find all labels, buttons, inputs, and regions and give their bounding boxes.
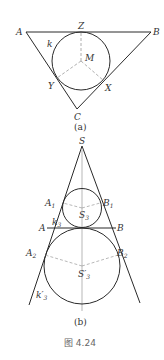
label-s3-prime: S′3 [78,269,90,280]
label-a: A [15,27,23,37]
label-s3: S3 [79,210,89,221]
label-b: B [116,223,124,233]
figure-canvas: A B C Z M k Y X (a) S A1 B1 S3 k3 A B A2… [0,0,164,360]
label-c: C [74,112,81,122]
figure-a: A B C Z M k Y X (a) [15,21,160,132]
label-b: B [152,27,160,37]
caption-a: (a) [74,122,86,132]
label-b1: B1 [102,198,113,209]
label-y: Y [48,81,55,91]
label-m: M [84,53,95,63]
label-x: X [104,83,112,93]
label-k3-prime: k′3 [36,290,48,301]
radius-mx [81,61,103,80]
radius-s3-a1 [63,203,82,208]
triangle-abc [26,32,151,109]
label-z: Z [77,21,85,31]
label-k: k [47,39,52,49]
radius-s3p-a2 [45,255,82,266]
figure-title: 图 4.24 [64,338,96,348]
radius-s3p-b2 [82,255,118,266]
figure-b: S A1 B1 S3 k3 A B A2 B2 S′3 k′3 (b) [25,136,140,327]
label-k3: k3 [52,217,61,228]
label-b2: B2 [116,248,128,259]
radius-my [57,61,81,78]
caption-b: (b) [74,317,87,327]
label-a: A [38,223,46,233]
label-a1: A1 [44,198,55,209]
cone-line-right [82,146,140,303]
label-a2: A2 [25,248,37,259]
radius-s3-b1 [82,203,100,208]
label-s: S [79,136,85,146]
